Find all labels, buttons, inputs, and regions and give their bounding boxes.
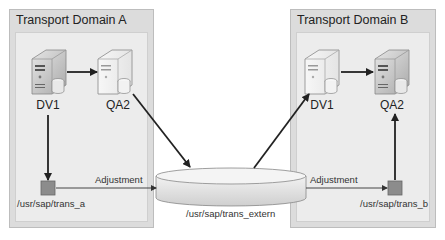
transport-dir-b-icon: [388, 181, 402, 195]
system-label-b-dv1: DV1: [302, 98, 342, 112]
edge-label-right-adjustment: Adjustment: [310, 174, 358, 185]
shared-storage-label: /usr/sap/trans_extern: [186, 208, 275, 219]
server-icon-b-dv1: [305, 50, 339, 94]
system-label-a-dv1: DV1: [28, 98, 68, 112]
transport-dir-b-label: /usr/sap/trans_b: [360, 198, 428, 209]
arrow-a-qa2-to-disk: [133, 94, 190, 167]
server-icon-a-dv1: [32, 50, 66, 94]
transport-dir-a-label: /usr/sap/trans_a: [17, 198, 85, 209]
system-label-a-qa2: QA2: [98, 98, 138, 112]
shared-storage-disk-icon: [156, 168, 306, 206]
edge-label-left-adjustment: Adjustment: [95, 174, 143, 185]
server-icon-a-qa2: [98, 50, 132, 94]
transport-dir-a-icon: [41, 181, 55, 195]
system-label-b-qa2: QA2: [372, 98, 412, 112]
arrow-disk-to-b-dv1: [254, 94, 309, 168]
server-icon-b-qa2: [375, 50, 409, 94]
